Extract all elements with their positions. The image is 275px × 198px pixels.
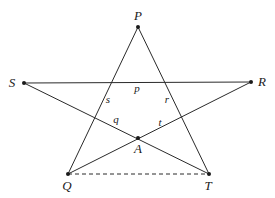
angle-label-t: t: [158, 116, 162, 128]
label-A: A: [133, 141, 142, 156]
point-T: [207, 172, 211, 176]
point-Q: [66, 172, 70, 176]
segment-PT: [138, 27, 209, 174]
vertex-labels: P S R Q T A: [9, 8, 266, 193]
pentagram-diagram: P S R Q T A p s r q t: [0, 0, 275, 198]
label-S: S: [9, 75, 16, 90]
angle-label-r: r: [165, 93, 170, 105]
angle-label-q: q: [113, 113, 119, 125]
label-T: T: [204, 178, 212, 193]
point-R: [249, 80, 253, 84]
angle-labels: p s r q t: [106, 82, 170, 128]
angle-label-s: s: [106, 93, 110, 105]
label-Q: Q: [62, 178, 72, 193]
point-P: [136, 25, 140, 29]
angle-label-p: p: [133, 82, 140, 94]
segment-QR: [68, 82, 251, 174]
point-S: [22, 81, 26, 85]
label-P: P: [133, 8, 142, 23]
label-R: R: [257, 74, 266, 89]
segment-PQ: [68, 27, 138, 174]
point-A: [136, 136, 140, 140]
segment-ST: [24, 83, 209, 174]
